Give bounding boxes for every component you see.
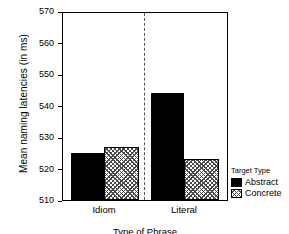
y-tick-label: 570	[39, 6, 54, 16]
y-tick-label: 550	[39, 69, 54, 79]
y-tick-label: 560	[39, 38, 54, 48]
bar-chart-figure: Mean naming latencies (in ms) 570 560 55…	[0, 0, 289, 234]
x-tick-label-idiom: Idiom	[92, 204, 115, 215]
bar-literal-abstract	[151, 93, 184, 200]
legend-label-concrete: Concrete	[245, 188, 282, 198]
group-divider-line	[144, 13, 145, 200]
legend-label-abstract: Abstract	[245, 177, 278, 187]
legend-swatch-abstract-icon	[231, 178, 242, 187]
x-tick-label-literal: Literal	[171, 204, 197, 215]
bar-literal-concrete	[184, 159, 219, 200]
y-tick-label: 510	[39, 195, 54, 205]
legend-item-abstract: Abstract	[231, 177, 289, 187]
legend-swatch-concrete-icon	[231, 189, 242, 198]
y-axis-title: Mean naming latencies (in ms)	[18, 14, 29, 194]
legend-item-concrete: Concrete	[231, 188, 289, 198]
plot-area	[62, 12, 228, 201]
bar-idiom-concrete	[104, 147, 139, 200]
y-tick-label: 540	[39, 101, 54, 111]
x-axis-title: Type of Phrase	[62, 226, 228, 234]
legend-title: Target Type	[231, 166, 289, 175]
chart-legend: Target Type Abstract Concrete	[231, 166, 289, 198]
y-tick-label: 520	[39, 164, 54, 174]
bar-idiom-abstract	[71, 153, 104, 200]
y-tick-label: 530	[39, 132, 54, 142]
